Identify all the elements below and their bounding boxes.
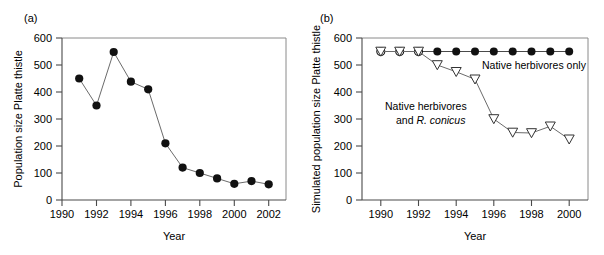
y-tick-200: 200 [34, 140, 52, 152]
data-point-1994 [127, 78, 135, 86]
annotation-rconicus-line1: Native herbivores [385, 100, 467, 112]
panel-a-axes [62, 38, 286, 200]
data-point-1996 [161, 139, 169, 147]
x-tick-1990: 1990 [50, 208, 74, 220]
panel-a-xlabel: Year [163, 230, 186, 242]
annotation-rconicus: Native herbivores and R. conicus [385, 100, 467, 126]
panel-b-label: (b) [320, 12, 333, 24]
panel-a-x-ticks [62, 200, 269, 206]
y-tick-600: 600 [34, 32, 52, 44]
x-tick-1996: 1996 [153, 208, 177, 220]
y-tick-500: 500 [34, 59, 52, 71]
data-point-1993 [433, 48, 441, 56]
panel-b-x-ticklabels: 1990 1992 1994 1996 1998 2000 [369, 208, 582, 220]
data-point-2001 [247, 177, 255, 185]
data-point-2000 [565, 48, 573, 56]
x-tick-1990: 1990 [369, 208, 393, 220]
data-point-1997 [509, 48, 517, 56]
y-tick-400: 400 [34, 86, 52, 98]
data-point-1995 [144, 85, 152, 93]
panel-b-ylabel: Simulated population size Platte thistle [310, 25, 322, 213]
data-point-1993 [110, 48, 118, 56]
y-tick-300: 300 [334, 113, 352, 125]
y-tick-0: 0 [46, 194, 52, 206]
tri-1996 [489, 115, 499, 124]
x-tick-1992: 1992 [406, 208, 430, 220]
data-point-1995 [471, 48, 479, 56]
y-tick-100: 100 [334, 167, 352, 179]
tri-1994 [451, 68, 461, 77]
panel-b-plot: (b) 600 500 400 300 [302, 0, 604, 255]
x-tick-2000: 2000 [222, 208, 246, 220]
x-tick-1994: 1994 [119, 208, 143, 220]
panel-a-y-ticks [56, 38, 62, 200]
x-tick-1996: 1996 [482, 208, 506, 220]
panel-b-x-ticks [381, 200, 569, 206]
y-tick-0: 0 [346, 194, 352, 206]
y-tick-400: 400 [334, 86, 352, 98]
annotation-rconicus-prefix: and [396, 114, 416, 126]
annotation-rconicus-species: R. conicus [416, 114, 466, 126]
data-point-1997 [179, 164, 187, 172]
y-tick-100: 100 [34, 167, 52, 179]
y-tick-300: 300 [34, 113, 52, 125]
panel-a-y-ticklabels: 600 500 400 300 200 100 0 [34, 32, 52, 206]
panel-a-series-line [79, 52, 269, 184]
y-tick-200: 200 [334, 140, 352, 152]
panel-a: (a) 600 500 400 30 [0, 0, 302, 255]
tri-1993 [432, 61, 442, 70]
x-tick-1998: 1998 [519, 208, 543, 220]
x-tick-1992: 1992 [84, 208, 108, 220]
panel-a-plot: (a) 600 500 400 30 [0, 0, 302, 255]
y-tick-600: 600 [334, 32, 352, 44]
x-tick-1998: 1998 [188, 208, 212, 220]
panel-b: (b) 600 500 400 300 [302, 0, 604, 255]
tri-1995 [470, 75, 480, 84]
data-point-1999 [213, 174, 221, 182]
x-tick-2000: 2000 [557, 208, 581, 220]
panel-a-data-markers [75, 48, 273, 189]
panel-a-label: (a) [24, 12, 37, 24]
data-point-1996 [490, 48, 498, 56]
data-point-1999 [546, 48, 554, 56]
x-tick-1994: 1994 [444, 208, 468, 220]
figure-container: (a) 600 500 400 30 [0, 0, 604, 255]
tri-2000 [564, 135, 574, 144]
data-point-1998 [528, 48, 536, 56]
y-tick-500: 500 [334, 59, 352, 71]
data-point-2002 [265, 180, 273, 188]
annotation-rconicus-line2: and R. conicus [396, 114, 466, 126]
data-point-1994 [452, 48, 460, 56]
data-point-1992 [92, 101, 100, 109]
panel-a-ylabel: Population size Platte thistle [12, 50, 24, 188]
annotation-native-only: Native herbivores only [482, 59, 587, 71]
data-point-2000 [230, 180, 238, 188]
x-tick-2002: 2002 [256, 208, 280, 220]
panel-b-xlabel: Year [464, 230, 487, 242]
tri-1999 [545, 122, 555, 131]
data-point-1991 [75, 74, 83, 82]
panel-b-y-ticks [356, 38, 362, 200]
panel-a-x-ticklabels: 1990 1992 1994 1996 1998 2000 2002 [50, 208, 281, 220]
data-point-1998 [196, 169, 204, 177]
panel-b-y-ticklabels: 600 500 400 300 200 100 0 [334, 32, 352, 206]
